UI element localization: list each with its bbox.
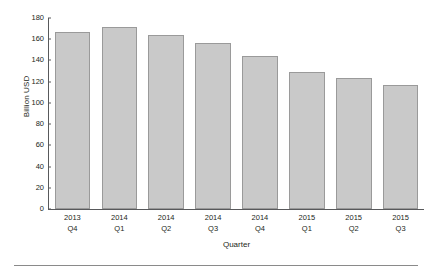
bar[interactable] (336, 78, 372, 209)
bar[interactable] (148, 35, 184, 209)
x-axis-tick-label-line: Q4 (237, 223, 284, 234)
x-axis-tick-label-line: 2013 (49, 212, 96, 223)
x-axis-tick-label-line: Q2 (143, 223, 190, 234)
y-axis-tick-label: 160 (31, 35, 44, 43)
x-axis-tick-label-line: 2014 (237, 212, 284, 223)
y-axis-tick-label: 20 (36, 184, 44, 192)
bar-slot (283, 18, 330, 209)
y-axis-tick-label: 180 (31, 14, 44, 22)
x-axis-tick-label: 2014Q1 (96, 212, 143, 234)
bar-slot (190, 18, 237, 209)
x-axis-tick-label: 2015Q1 (283, 212, 330, 234)
footer-divider (14, 265, 418, 266)
bar[interactable] (383, 85, 419, 209)
y-axis-tick-label: 100 (31, 99, 44, 107)
x-axis-tick-label-line: 2015 (283, 212, 330, 223)
bar[interactable] (289, 72, 325, 209)
bar-chart-figure: Billion USD 020406080100120140160180 201… (0, 0, 432, 274)
x-axis-tick-label: 2013Q4 (49, 212, 96, 234)
x-axis-tick-label-line: Q3 (190, 223, 237, 234)
x-axis-tick-label: 2014Q4 (237, 212, 284, 234)
x-axis-tick-label-line: Q1 (283, 223, 330, 234)
x-axis-tick-label-line: 2015 (377, 212, 424, 223)
bar-slot (330, 18, 377, 209)
x-axis-tick-label-line: Q2 (330, 223, 377, 234)
x-axis-tick-label: 2014Q3 (190, 212, 237, 234)
bar[interactable] (195, 43, 231, 209)
bar-slot (96, 18, 143, 209)
x-axis-tick-label: 2015Q3 (377, 212, 424, 234)
y-axis-tick-label: 40 (36, 163, 44, 171)
x-axis-title: Quarter (49, 240, 424, 249)
y-axis-tick-label: 140 (31, 56, 44, 64)
y-axis-tick-label: 80 (36, 120, 44, 128)
x-axis-tick-label-line: 2015 (330, 212, 377, 223)
x-axis-tick-label-line: 2014 (96, 212, 143, 223)
y-axis-tick-label: 60 (36, 141, 44, 149)
bar-slot (143, 18, 190, 209)
bar-slot (49, 18, 96, 209)
x-axis-tick-label: 2015Q2 (330, 212, 377, 234)
x-axis-tick-label-line: Q1 (96, 223, 143, 234)
bar-slot (377, 18, 424, 209)
x-axis-tick-label: 2014Q2 (143, 212, 190, 234)
y-axis-tick-labels: 020406080100120140160180 (18, 0, 48, 274)
y-axis-tick-label: 120 (31, 78, 44, 86)
x-axis-tick-label-line: 2014 (143, 212, 190, 223)
bar[interactable] (102, 27, 138, 210)
bar[interactable] (55, 32, 91, 209)
bar-slot (237, 18, 284, 209)
x-axis-tick-label-line: 2014 (190, 212, 237, 223)
y-axis-tick-label: 0 (40, 205, 44, 213)
plot-area: Billion USD 020406080100120140160180 201… (0, 0, 432, 274)
x-axis-tick-label-line: Q4 (49, 223, 96, 234)
x-axis-tick-label-line: Q3 (377, 223, 424, 234)
bar[interactable] (242, 56, 278, 209)
bar-series (49, 18, 424, 209)
x-axis-line (48, 209, 424, 210)
